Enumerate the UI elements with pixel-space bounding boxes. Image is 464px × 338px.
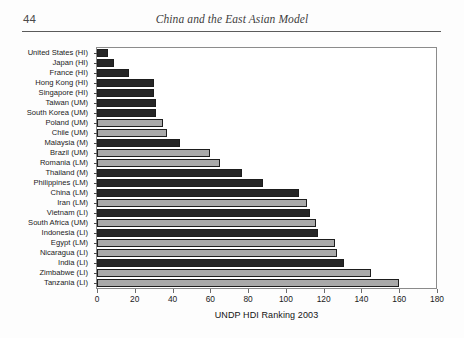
category-label: Poland (UM)	[45, 119, 88, 127]
bars-container	[97, 48, 437, 288]
x-axis-tick-label: 180	[424, 294, 450, 304]
bar	[97, 59, 114, 67]
book-page: 44 China and the East Asian Model United…	[0, 0, 464, 338]
x-axis-tick-label: 40	[160, 294, 186, 304]
bar	[97, 269, 371, 277]
x-axis-tick	[286, 289, 287, 293]
category-axis-labels: United States (HI)Japan (HI)France (HI)H…	[0, 48, 94, 288]
category-label: France (HI)	[50, 69, 88, 77]
category-label: Thailand (M)	[45, 169, 88, 177]
bar	[97, 139, 180, 147]
bar	[97, 239, 335, 247]
category-label: Indonesia (LI)	[42, 229, 88, 237]
x-axis-tick-label: 140	[348, 294, 374, 304]
x-axis-tick	[248, 289, 249, 293]
x-axis-title: UNDP HDI Ranking 2003	[96, 310, 437, 320]
bar	[97, 119, 163, 127]
bar	[97, 99, 156, 107]
category-label: Zimbabwe (LI)	[39, 269, 88, 277]
category-label: Romania (LM)	[40, 159, 88, 167]
x-axis-tick-label: 80	[235, 294, 261, 304]
category-label: Tanzania (LI)	[44, 279, 88, 287]
category-label: Vietnam (LI)	[47, 209, 88, 217]
x-axis-tick	[210, 289, 211, 293]
bar	[97, 219, 316, 227]
x-axis-tick-label: 120	[311, 294, 337, 304]
category-label: Japan (HI)	[53, 59, 88, 67]
category-label: Taiwan (UM)	[45, 99, 88, 107]
x-axis-tick-label: 160	[386, 294, 412, 304]
bar	[97, 69, 129, 77]
bar	[97, 229, 318, 237]
x-axis-tick	[361, 289, 362, 293]
category-label: Malaysia (M)	[45, 139, 88, 147]
bar	[97, 49, 108, 57]
x-axis-tick-label: 60	[197, 294, 223, 304]
category-label: United States (HI)	[28, 49, 88, 57]
bar	[97, 79, 154, 87]
bar	[97, 159, 220, 167]
category-label: Nicaragua (LI)	[40, 249, 88, 257]
category-label: Iran (LM)	[57, 199, 88, 207]
x-axis-tick	[173, 289, 174, 293]
bar	[97, 129, 167, 137]
x-axis-tick-label: 20	[122, 294, 148, 304]
category-label: Chile (UM)	[52, 129, 88, 137]
bar-chart-figure: United States (HI)Japan (HI)France (HI)H…	[0, 0, 464, 338]
bar	[97, 279, 399, 287]
category-label: South Korea (UM)	[27, 109, 88, 117]
category-label: South Africa (UM)	[28, 219, 88, 227]
category-label: Hong Kong (HI)	[35, 79, 88, 87]
bar	[97, 249, 337, 257]
category-label: Singapore (HI)	[39, 89, 88, 97]
bar	[97, 199, 307, 207]
x-axis-tick	[97, 289, 98, 293]
bar	[97, 149, 210, 157]
bar	[97, 189, 299, 197]
bar	[97, 179, 263, 187]
category-label: Philippines (LM)	[34, 179, 88, 187]
x-axis-tick	[135, 289, 136, 293]
category-label: India (LI)	[58, 259, 88, 267]
x-axis-tick-label: 100	[273, 294, 299, 304]
bar	[97, 89, 154, 97]
x-axis-tick	[324, 289, 325, 293]
bar	[97, 169, 242, 177]
x-axis-tick	[399, 289, 400, 293]
category-label: Brazil (UM)	[50, 149, 88, 157]
bar	[97, 259, 344, 267]
x-axis-tick	[437, 289, 438, 293]
bar	[97, 109, 156, 117]
bar	[97, 209, 310, 217]
category-label: Egypt (LM)	[51, 239, 88, 247]
category-label: China (LM)	[50, 189, 88, 197]
x-axis-tick-label: 0	[84, 294, 110, 304]
